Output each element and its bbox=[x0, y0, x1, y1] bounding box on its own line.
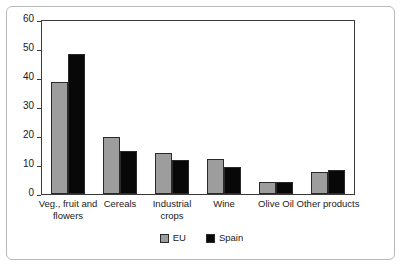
bar-group bbox=[94, 21, 146, 194]
chart-figure: 0102030405060 Veg., fruit and flowersCer… bbox=[0, 0, 403, 268]
bar-group bbox=[42, 21, 94, 194]
x-axis-category-label: Other products bbox=[296, 198, 360, 210]
bar-spain bbox=[276, 182, 293, 194]
legend-label: Spain bbox=[219, 233, 243, 243]
legend-item-spain: Spain bbox=[206, 233, 243, 243]
y-axis-tick-label: 0 bbox=[28, 188, 34, 198]
bar-spain bbox=[68, 54, 85, 194]
bar-eu bbox=[155, 153, 172, 194]
y-axis-tick-label: 20 bbox=[23, 130, 34, 140]
bar-eu bbox=[207, 159, 224, 194]
bar-spain bbox=[120, 151, 137, 194]
bar-group bbox=[146, 21, 198, 194]
x-axis-labels: Veg., fruit and flowersCerealsIndustrial… bbox=[42, 198, 354, 230]
black-swatch bbox=[206, 234, 215, 243]
bar-eu bbox=[51, 82, 68, 194]
gray-swatch bbox=[160, 234, 169, 243]
legend-item-eu: EU bbox=[160, 233, 186, 243]
chart-legend: EUSpain bbox=[0, 233, 403, 243]
y-axis-tick-label: 10 bbox=[23, 159, 34, 169]
y-axis-tick-label: 40 bbox=[23, 72, 34, 82]
bar-group bbox=[198, 21, 250, 194]
y-axis-tick-label: 60 bbox=[23, 14, 34, 24]
bar-spain bbox=[224, 167, 241, 194]
bar-spain bbox=[328, 170, 345, 195]
bar-eu bbox=[259, 182, 276, 194]
bar-spain bbox=[172, 160, 189, 194]
bar-eu bbox=[311, 172, 328, 194]
bar-eu bbox=[103, 137, 120, 194]
bars-layer bbox=[42, 21, 354, 194]
y-axis-tick-label: 30 bbox=[23, 101, 34, 111]
y-axis-tick-label: 50 bbox=[23, 43, 34, 53]
y-axis: 0102030405060 bbox=[0, 20, 41, 195]
legend-label: EU bbox=[173, 233, 186, 243]
bar-group bbox=[250, 21, 302, 194]
bar-group bbox=[302, 21, 354, 194]
